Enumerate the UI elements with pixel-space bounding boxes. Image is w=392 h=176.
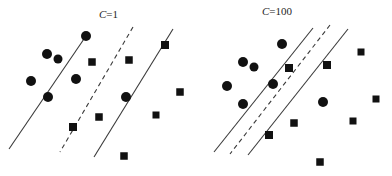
panel-left-circle-marker bbox=[43, 92, 53, 102]
panel-left-square-marker bbox=[161, 41, 169, 49]
panel-left-circle-marker bbox=[42, 49, 52, 59]
svm-regularization-figure: C=1 C=100 bbox=[0, 0, 392, 176]
panel-left-square-marker bbox=[88, 58, 96, 66]
panel-right-circle-marker bbox=[222, 81, 232, 91]
panel-right-square-marker bbox=[350, 118, 357, 125]
panel-c-1-label-value: =1 bbox=[106, 8, 118, 20]
panel-c-100-label-value: =100 bbox=[269, 5, 292, 17]
panel-left-circle-marker bbox=[54, 55, 63, 64]
panel-c-1-label: C=1 bbox=[99, 8, 118, 20]
panel-left-square-marker bbox=[69, 123, 77, 131]
panel-c-100-plot bbox=[196, 0, 392, 176]
panel-right-square-marker bbox=[323, 61, 331, 69]
panel-right-square-marker bbox=[290, 119, 298, 127]
panel-left-square-marker bbox=[125, 56, 133, 64]
panel-right-square-marker bbox=[373, 96, 380, 103]
panel-left-circle-marker bbox=[26, 76, 36, 86]
panel-right-circle-marker bbox=[250, 63, 259, 72]
panel-right-circle-marker bbox=[238, 57, 248, 67]
panel-right-circle-marker bbox=[238, 99, 248, 109]
panel-left-square-marker bbox=[176, 88, 184, 96]
panel-c-100-label: C=100 bbox=[262, 5, 292, 17]
panel-c-1: C=1 bbox=[0, 0, 196, 176]
panel-left-square-marker bbox=[120, 152, 128, 160]
panel-right-upper-margin-boundary bbox=[248, 29, 348, 155]
panel-left-circle-marker bbox=[121, 92, 131, 102]
panel-left-square-marker bbox=[95, 113, 103, 121]
panel-left-circle-marker bbox=[81, 31, 91, 41]
panel-left-circle-marker bbox=[71, 74, 81, 84]
panel-right-square-marker bbox=[316, 158, 324, 166]
panel-left-decision-boundary bbox=[60, 27, 133, 152]
panel-right-circle-marker bbox=[268, 79, 278, 89]
panel-left-square-marker bbox=[153, 112, 160, 119]
panel-c-100: C=100 bbox=[196, 0, 392, 176]
panel-right-square-marker bbox=[285, 64, 293, 72]
panel-right-circle-marker bbox=[277, 39, 287, 49]
panel-right-square-marker bbox=[265, 131, 273, 139]
panel-right-circle-marker bbox=[318, 97, 328, 107]
panel-right-square-marker bbox=[358, 49, 365, 56]
panel-c-1-plot bbox=[0, 0, 196, 176]
